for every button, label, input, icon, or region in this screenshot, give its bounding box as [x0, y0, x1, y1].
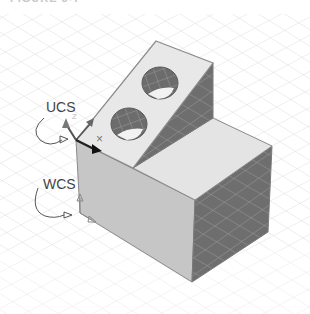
ucs-label: UCS: [46, 99, 76, 115]
cad-viewport: Z ×: [0, 0, 310, 314]
origin-marker: ×: [96, 132, 103, 146]
wcs-label: WCS: [43, 176, 76, 192]
hole-lower: [111, 108, 147, 140]
hole-upper: [142, 67, 178, 99]
